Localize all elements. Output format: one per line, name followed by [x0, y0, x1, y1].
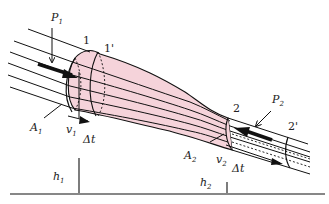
label-p2: P2 [271, 93, 284, 108]
label-v1: v1 [66, 123, 77, 138]
label-section-2: 2 [233, 102, 240, 115]
label-section-1: 1 [83, 34, 90, 47]
label-h2: h2 [200, 176, 212, 191]
label-section-1prime: 1' [104, 42, 114, 55]
p2-arrow [256, 111, 271, 126]
label-v2: v2 [216, 153, 227, 168]
label-dt2: Δt [231, 162, 245, 175]
label-p1: P1 [50, 11, 63, 26]
a1-pointer [44, 104, 62, 118]
p2-force-arrow [246, 131, 272, 140]
v2-dt-arrowhead [271, 158, 283, 165]
label-dt1: Δt [82, 133, 96, 146]
bernoulli-diagram: P1 1 1' P2 2 2' A1 v1 Δt A2 v2 Δt h1 h2 [0, 0, 329, 204]
label-h1: h1 [53, 170, 65, 185]
label-a2: A2 [183, 149, 197, 164]
label-a1: A1 [29, 121, 42, 136]
label-section-2prime: 2' [288, 120, 298, 133]
v1-dt-arrowhead [79, 116, 90, 124]
